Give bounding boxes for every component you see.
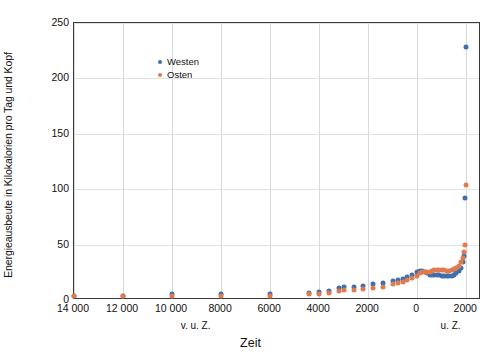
x-tick-label: 2000 — [356, 302, 379, 314]
gridline-horizontal — [74, 134, 479, 135]
scatter-chart-figure: Energieausbeute in Kilokalorien pro Tag … — [0, 0, 501, 360]
legend-item[interactable]: Westen — [158, 55, 224, 68]
x-tick-label: 4000 — [306, 302, 329, 314]
x-tick-label: 14 000 — [57, 302, 89, 314]
gridline-vertical — [123, 23, 124, 298]
gridline-horizontal — [74, 23, 479, 24]
data-point — [380, 284, 385, 289]
y-axis-tick-labels: 050100150200250 — [30, 22, 69, 299]
era-label: u. Z. — [441, 320, 461, 331]
gridline-vertical — [368, 23, 369, 298]
y-tick-label: 150 — [35, 127, 69, 139]
data-point — [463, 196, 468, 201]
y-tick-label: 250 — [35, 16, 69, 28]
gridline-horizontal — [74, 189, 479, 190]
legend-label: Osten — [167, 69, 192, 80]
era-label: v. u. Z. — [181, 320, 211, 331]
data-point — [219, 293, 224, 298]
x-tick-label: 8000 — [208, 302, 231, 314]
y-tick-label: 50 — [35, 238, 69, 250]
data-point — [351, 288, 356, 293]
data-point — [121, 293, 126, 298]
gridline-vertical — [466, 23, 467, 298]
data-point — [341, 288, 346, 293]
data-point — [460, 255, 465, 260]
legend-marker-icon — [158, 73, 162, 77]
data-point — [326, 291, 331, 296]
chart-legend: WestenOsten — [154, 52, 228, 84]
gridline-horizontal — [74, 245, 479, 246]
x-tick-label: 6000 — [257, 302, 280, 314]
legend-label: Westen — [167, 56, 199, 67]
data-point — [459, 260, 464, 265]
data-point — [371, 285, 376, 290]
data-point — [170, 293, 175, 298]
gridline-vertical — [319, 23, 320, 298]
y-tick-label: 100 — [35, 182, 69, 194]
data-point — [317, 292, 322, 297]
data-point — [307, 292, 312, 297]
x-tick-label: 2000 — [454, 302, 477, 314]
y-axis-title: Energieausbeute in Kilokalorien pro Tag … — [0, 0, 16, 330]
data-point — [461, 250, 466, 255]
data-point — [464, 45, 469, 50]
legend-item[interactable]: Osten — [158, 68, 224, 81]
data-point — [72, 293, 77, 298]
x-tick-label: 0 — [413, 302, 419, 314]
x-axis-title: Zeit — [0, 336, 501, 350]
x-tick-label: 12 000 — [106, 302, 138, 314]
x-tick-label: 10 000 — [155, 302, 187, 314]
x-axis-tick-labels: 14 00012 00010 000800060004000200002000 — [0, 302, 501, 318]
data-point — [463, 242, 468, 247]
data-point — [268, 293, 273, 298]
data-point — [361, 286, 366, 291]
plot-area: WestenOsten — [73, 22, 480, 299]
x-axis-era-labels: v. u. Z.u. Z. — [0, 320, 501, 334]
data-point — [464, 182, 469, 187]
gridline-horizontal — [74, 78, 479, 79]
gridline-vertical — [74, 23, 75, 298]
gridline-vertical — [270, 23, 271, 298]
legend-marker-icon — [158, 60, 162, 64]
gridline-vertical — [417, 23, 418, 298]
y-tick-label: 200 — [35, 71, 69, 83]
